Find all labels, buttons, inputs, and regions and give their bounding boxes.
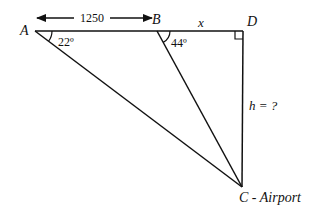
angle-a-label: 22º [58,35,74,49]
line-ac [35,31,242,187]
segment-x-label: x [197,15,204,30]
angle-arc-a [49,31,52,41]
point-a-label: A [19,23,29,38]
angle-b-label: 44º [171,36,187,50]
right-angle-mark [235,31,243,39]
line-dc [242,31,243,187]
height-label: h = ? [249,98,278,113]
dimension-ab-label: 1250 [80,11,104,25]
point-b-label: B [152,12,161,27]
line-bc [157,31,242,187]
geometry-diagram: 1250 A B D x 22º 44º h = ? C - Airport [0,0,309,214]
point-c-label: C - Airport [239,190,302,205]
angle-arc-b [163,31,170,42]
point-d-label: D [246,14,257,29]
